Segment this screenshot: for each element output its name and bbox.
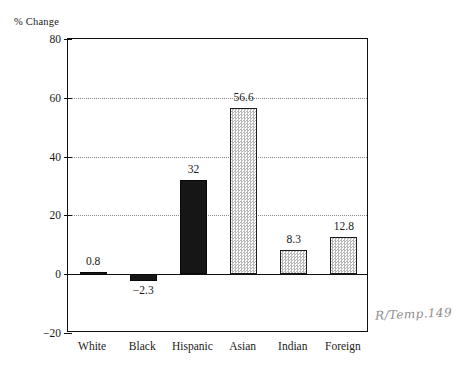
bar-chart: % Change 806040200−20 0.8−2.33256.68.312… <box>0 0 472 369</box>
y-tick-mark <box>64 39 72 40</box>
y-tick-mark <box>64 98 72 99</box>
bar-indian <box>280 250 307 274</box>
y-axis-title: % Change <box>14 16 59 27</box>
y-tick-label: 0 <box>55 268 61 280</box>
bar-white <box>80 272 107 275</box>
bar-asian <box>230 108 257 274</box>
x-tick-label-indian: Indian <box>278 340 307 352</box>
x-tick-label-foreign: Foreign <box>325 340 361 352</box>
bar-value-label-asian: 56.6 <box>234 91 254 103</box>
x-tick-label-black: Black <box>129 340 156 352</box>
handwritten-reference-note: R/Temp.149 <box>375 305 453 322</box>
y-tick-label: −20 <box>43 327 61 339</box>
zero-baseline <box>68 274 367 275</box>
y-tick-label: 20 <box>50 209 62 221</box>
y-tick-mark <box>64 333 72 334</box>
bar-value-label-foreign: 12.8 <box>334 220 354 232</box>
plot-area: 806040200−20 0.8−2.33256.68.312.8 <box>67 38 368 332</box>
gridline <box>68 98 367 99</box>
gridline <box>68 215 367 216</box>
bar-black <box>130 274 157 281</box>
gridline <box>68 157 367 158</box>
bar-value-label-white: 0.8 <box>86 255 100 267</box>
y-tick-mark <box>64 274 72 275</box>
bar-value-label-indian: 8.3 <box>287 233 301 245</box>
bar-value-label-black: −2.3 <box>133 284 154 296</box>
x-tick-label-white: White <box>78 340 106 352</box>
bar-hispanic <box>180 180 207 274</box>
x-tick-label-hispanic: Hispanic <box>172 340 213 352</box>
y-tick-label: 80 <box>50 33 62 45</box>
y-tick-mark <box>64 215 72 216</box>
bar-foreign <box>330 237 357 275</box>
y-tick-mark <box>64 157 72 158</box>
y-tick-label: 40 <box>50 151 62 163</box>
y-tick-label: 60 <box>50 92 62 104</box>
x-tick-label-asian: Asian <box>229 340 256 352</box>
bar-value-label-hispanic: 32 <box>188 163 200 175</box>
